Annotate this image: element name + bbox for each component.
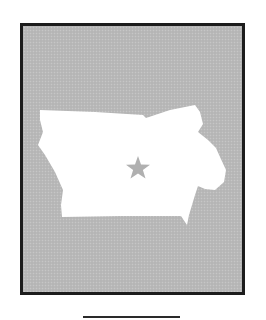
answer-line [83,316,180,318]
state-map [0,0,266,320]
